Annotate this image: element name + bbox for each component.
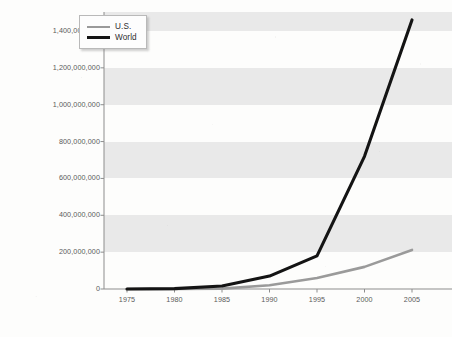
axis-tickmarks: [101, 31, 413, 293]
data-series-lines: [127, 20, 412, 289]
legend-label-world: World: [115, 32, 137, 43]
chart-svg: [0, 0, 452, 337]
legend-swatch-us-icon: [87, 26, 110, 28]
legend-label-us: U.S.: [115, 21, 131, 32]
series-line-u-s: [127, 250, 412, 289]
chart-container: 0200,000,000400,000,000600,000,000800,00…: [0, 0, 452, 337]
chart-legend: U.S. World: [79, 15, 147, 49]
legend-item-us: U.S.: [87, 21, 137, 32]
legend-swatch-world-icon: [87, 36, 110, 39]
series-line-world: [127, 20, 412, 289]
legend-item-world: World: [87, 32, 137, 43]
